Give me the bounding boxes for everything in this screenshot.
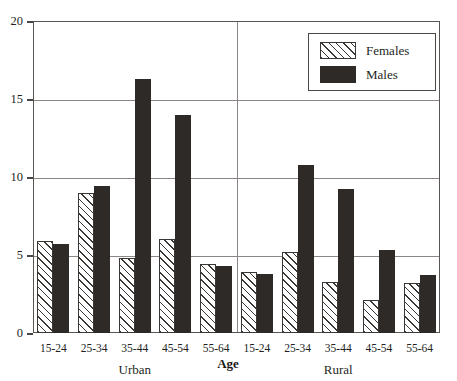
bar-rural-35-44-males [338, 189, 354, 333]
bar-rural-55-64-females [404, 283, 420, 333]
legend-label-males: Males [366, 68, 398, 81]
y-tick-label: 10 [0, 171, 23, 184]
bar-urban-35-44-males [135, 79, 151, 333]
bar-urban-55-64-males [216, 266, 232, 333]
y-tick-label: 5 [0, 249, 23, 262]
panel-label-urban: Urban [95, 363, 175, 376]
bar-urban-45-54-males [175, 115, 191, 333]
bar-rural-25-34-females [282, 252, 298, 333]
legend-swatch-males-icon [320, 66, 356, 83]
panel-label-rural: Rural [298, 363, 378, 376]
bar-urban-35-44-females [119, 258, 135, 333]
bar-rural-45-54-males [379, 250, 395, 333]
x-tick-label: 55-64 [390, 342, 450, 354]
y-tick-label: 15 [0, 93, 23, 106]
y-tick-label: 20 [0, 15, 23, 28]
bar-urban-55-64-females [200, 264, 216, 333]
legend: Females Males [308, 33, 436, 91]
legend-swatch-females-icon [320, 42, 356, 59]
bar-rural-25-34-males [298, 165, 314, 333]
bar-rural-45-54-females [363, 300, 379, 333]
bar-urban-45-54-females [159, 239, 175, 333]
y-tick-mark [27, 333, 33, 335]
legend-item-males: Males [320, 66, 398, 83]
bar-urban-25-34-females [78, 193, 94, 333]
bar-rural-55-64-males [420, 275, 436, 333]
bar-chart: 05101520 15-2425-3435-4445-5455-64Urban1… [0, 0, 457, 381]
bar-rural-15-24-females [241, 272, 257, 333]
bar-rural-15-24-males [257, 274, 273, 333]
x-axis-title: Age [196, 357, 260, 370]
legend-label-females: Females [366, 44, 409, 57]
bar-urban-15-24-females [37, 241, 53, 333]
bar-rural-35-44-females [322, 282, 338, 333]
y-tick-label: 0 [0, 327, 23, 340]
bar-urban-15-24-males [53, 244, 69, 333]
legend-item-females: Females [320, 42, 409, 59]
bar-urban-25-34-males [94, 186, 110, 333]
